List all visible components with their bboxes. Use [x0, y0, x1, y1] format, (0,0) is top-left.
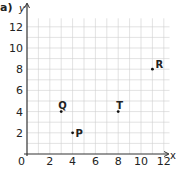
points: PQTR — [58, 59, 163, 139]
point-marker — [151, 68, 154, 71]
point-marker — [71, 131, 74, 134]
point-marker — [117, 110, 120, 113]
point-label: Q — [58, 100, 67, 111]
origin-label: 0 — [18, 155, 25, 168]
x-tick-label: 2 — [46, 155, 53, 168]
point-Q: Q — [58, 100, 67, 113]
grid — [27, 18, 170, 154]
x-tick-label: 4 — [69, 155, 76, 168]
point-label: T — [116, 100, 123, 111]
y-tick-label: 6 — [16, 84, 23, 97]
x-axis-label: x — [170, 150, 176, 161]
x-tick-label: 12 — [157, 155, 171, 168]
y-tick-label: 2 — [16, 127, 23, 140]
coordinate-plot: a) yx 02468101224681012 PQTR — [0, 0, 178, 173]
x-tick-label: 8 — [115, 155, 122, 168]
tick-labels: 02468101224681012 — [9, 21, 171, 168]
x-tick-label: 6 — [92, 155, 99, 168]
point-label: R — [155, 59, 163, 70]
y-tick-label: 8 — [16, 63, 23, 76]
y-tick-label: 12 — [9, 21, 23, 34]
point-P: P — [71, 128, 83, 139]
point-marker — [60, 110, 63, 113]
point-label: P — [76, 128, 83, 139]
y-axis-label: y — [18, 3, 26, 14]
x-tick-label: 10 — [134, 155, 148, 168]
point-T: T — [116, 100, 123, 113]
point-R: R — [151, 59, 163, 70]
part-label: a) — [0, 1, 12, 14]
y-tick-label: 4 — [16, 106, 23, 119]
y-tick-label: 10 — [9, 42, 23, 55]
